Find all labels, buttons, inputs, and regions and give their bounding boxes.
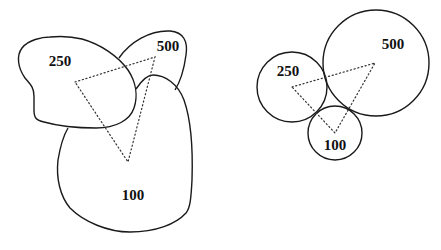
- left-triangle-connector: [75, 57, 155, 162]
- diagram-canvas: 250 500 100 250 500 100: [0, 0, 441, 250]
- circle-500: [323, 10, 429, 116]
- right-triangle-connector: [292, 63, 375, 133]
- circle-500-label: 500: [382, 36, 405, 52]
- blob-250-label: 250: [49, 53, 72, 69]
- circle-100-label: 100: [324, 137, 347, 153]
- blob-500-label: 500: [157, 38, 180, 54]
- circle-250-label: 250: [277, 63, 300, 79]
- blob-100-outline: [58, 75, 193, 232]
- blob-100-label: 100: [122, 187, 145, 203]
- blob-250-outline: [18, 36, 136, 128]
- right-figure-circles: 250 500 100: [257, 10, 429, 160]
- left-figure-blobs: 250 500 100: [18, 31, 192, 232]
